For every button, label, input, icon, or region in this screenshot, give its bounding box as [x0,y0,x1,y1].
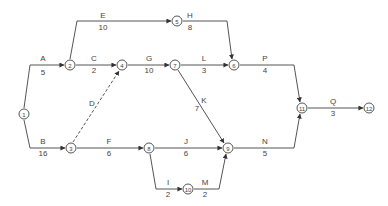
event-node-7: 7 [170,60,180,70]
activity-name-label: B [40,137,45,146]
activity-arrow-p [240,65,300,102]
activity-duration-label: 6 [107,149,112,158]
event-node-11: 11 [297,103,307,113]
event-node-4: 4 [117,60,127,70]
activity-duration-label: 2 [166,190,171,199]
activity-duration-label: 2 [92,66,97,75]
event-node-6: 6 [229,60,239,70]
activity-name-label: E [100,11,105,20]
event-node-1: 1 [19,109,29,119]
event-node-10: 10 [183,184,193,194]
activity-duration-label: 5 [41,68,46,77]
activity-name-label: L [202,54,207,63]
activity-name-label: H [187,11,193,20]
activity-arrows [24,21,363,189]
activity-duration-label: 4 [263,66,268,75]
activity-arrow-m [194,154,226,189]
network-diagram: A5B16E10C2DF6H8G10L3K7P4J6N5I2M2Q3 12345… [0,0,388,206]
activity-name-label: C [91,54,97,63]
activity-name-label: P [262,54,267,63]
activity-duration-label: 16 [39,149,48,158]
activity-duration-label: 8 [188,23,193,32]
activity-duration-label: 6 [184,149,189,158]
activity-duration-label: 10 [99,23,108,32]
event-node-9: 9 [223,143,233,153]
activity-duration-label: 3 [202,66,207,75]
event-node-5: 5 [172,16,182,26]
activity-name-label: N [262,137,268,146]
event-node-12: 12 [364,103,374,113]
node-number: 12 [366,106,373,112]
node-number: 10 [185,187,192,193]
activity-name-label: J [184,137,188,146]
activity-name-label: I [167,178,169,187]
activity-duration-label: 7 [195,104,200,113]
activity-name-label: M [202,178,209,187]
node-number: 11 [299,106,306,112]
activity-name-label: F [107,137,112,146]
activity-arrow-e [70,21,171,59]
activity-name-label: D [89,99,95,108]
activity-duration-label: 10 [145,66,154,75]
activity-duration-label: 2 [203,190,208,199]
activity-duration-label: 3 [331,109,336,118]
activity-name-label: A [40,54,46,63]
event-node-8: 8 [144,143,154,153]
activity-labels: A5B16E10C2DF6H8G10L3K7P4J6N5I2M2Q3 [39,11,337,199]
activity-arrow-k [178,70,224,143]
event-node-2: 2 [65,60,75,70]
activity-duration-label: 5 [263,149,268,158]
activity-name-label: Q [330,97,336,106]
activity-name-label: K [201,96,207,105]
activity-arrow-d [73,71,119,142]
event-node-3: 3 [66,143,76,153]
activity-name-label: G [146,54,152,63]
